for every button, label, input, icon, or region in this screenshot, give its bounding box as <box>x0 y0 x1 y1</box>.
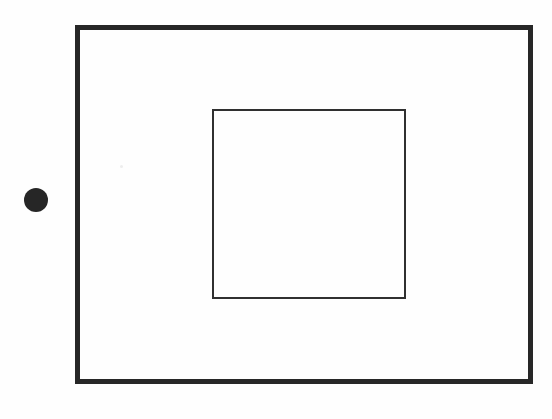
dot-marker <box>24 188 48 212</box>
inner-rectangle <box>212 109 406 299</box>
scan-speck <box>120 165 123 168</box>
figure-canvas <box>0 0 552 419</box>
